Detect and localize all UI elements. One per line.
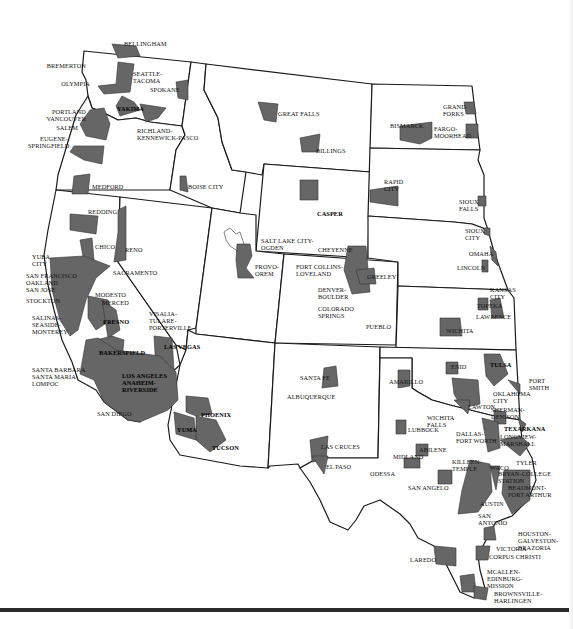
label-tucson: TUCSON <box>212 444 239 451</box>
label-richland: RICHLAND- KENNEWICK-PASCO <box>137 127 198 141</box>
label-las-cruces: LAS CRUCES <box>321 443 360 450</box>
label-yuba-city: YUBA CITY <box>32 253 50 267</box>
label-bremerton: BREMERTON <box>46 62 86 69</box>
label-wichita: WICHITA <box>446 327 473 334</box>
label-odessa: ODESSA <box>370 470 395 477</box>
label-santa-barbara: SANTA BARBARA SANTA MARIA- LOMPOC <box>32 366 85 387</box>
label-medford: MEDFORD <box>92 183 124 190</box>
label-killeen-temple: KILLEEN- TEMPLE <box>452 458 481 472</box>
label-modesto: MODESTO <box>95 291 126 298</box>
label-lincoln: LINCOLN <box>457 264 485 271</box>
label-grand-forks: GRAND FORKS <box>443 103 466 117</box>
label-colorado-springs: COLORADO SPRINGS <box>318 305 354 319</box>
label-casper: CASPER <box>317 210 343 217</box>
label-san-diego: SAN DIEGO <box>97 410 132 417</box>
label-santa-fe: SANTA FE <box>300 374 330 381</box>
label-boise-city: BOISE CITY <box>188 183 223 190</box>
label-sacramento: SACRAMENTO <box>113 269 157 276</box>
label-omaha: OMAHA <box>469 250 493 257</box>
label-redding: REDDING <box>88 208 117 215</box>
label-san-angelo: SAN ANGELO <box>408 484 449 491</box>
label-rapid-city: RAPID CITY <box>384 178 403 192</box>
label-yuma: YUMA <box>177 426 197 433</box>
page-spine-shadow <box>569 0 573 629</box>
label-stockton: STOCKTON <box>26 297 60 304</box>
label-denver-boulder: DENVER- BOULDER <box>318 286 348 300</box>
label-topeka: TOPEKA <box>477 302 502 309</box>
label-visalia: VISALIA- TULARE- PORTERVILLE <box>149 310 192 331</box>
label-las-vegas: LAS VEGAS <box>164 343 200 350</box>
label-chico: CHICO <box>95 243 115 250</box>
label-seattle-tacoma: SEATTLE- TACOMA <box>133 70 162 84</box>
state-montana <box>204 64 372 175</box>
label-sioux-falls: SIOUX FALLS <box>459 198 479 212</box>
label-enid: ENID <box>451 363 466 370</box>
label-salinas: SALINAS- SEASIDE- MONTEREY <box>32 314 68 335</box>
label-dallas-fort-worth: DALLAS- FORT WORTH <box>456 430 497 444</box>
label-phoenix: PHOENIX <box>201 411 231 418</box>
label-midland: MIDLAND <box>393 453 423 460</box>
label-pueblo: PUEBLO <box>366 323 391 330</box>
label-san-francisco: SAN FRANCISCO OAKLAND SAN JOSE <box>26 272 77 293</box>
label-san-antonio: SAN ANTONIO <box>478 512 507 526</box>
label-merced: MERCED <box>102 299 129 306</box>
label-lawrence: LAWRENCE <box>476 313 511 320</box>
label-reno: RENO <box>125 246 143 253</box>
label-fort-smith: FORT SMITH <box>529 377 549 391</box>
label-yakima: YAKIMA <box>117 105 144 112</box>
label-beaumont: BEAUMONT- PORT ARTHUR <box>508 484 551 498</box>
label-oklahoma-city: OKLAHOMA CITY <box>493 390 531 404</box>
label-albuquerque: ALBUQUERQUE <box>287 393 335 400</box>
label-cheyenne: CHEYENNE <box>318 246 353 253</box>
label-mcallen: McALLEN- EDINBURG- MISSION <box>487 568 523 589</box>
label-fort-collins: FORT COLLINS- LOVELAND <box>296 263 343 277</box>
label-spokane: SPOKANE <box>150 86 180 93</box>
label-bryan-college-station: BRYAN-COLLEGE STATION <box>498 470 551 484</box>
label-texarkana: TEXARKANA <box>504 425 545 432</box>
label-great-falls: GREAT FALLS <box>278 110 320 117</box>
label-austin: AUSTIN <box>480 500 504 507</box>
label-tyler: TYLER <box>516 459 537 466</box>
label-billings: BILLINGS <box>316 147 345 154</box>
label-amarillo: AMARILLO <box>389 378 423 385</box>
label-portland-vancouver: PORTLAND VANCOUVER <box>38 108 86 122</box>
label-salt-lake-city: SALT LAKE CITY- OGDEN <box>261 237 314 251</box>
label-victoria: VICTORIA <box>496 545 527 552</box>
label-bellingham: BELLINGHAM <box>124 40 167 47</box>
label-brownsville: BROWNSVILLE- HARLINGEN <box>494 590 542 604</box>
label-el-paso: EL PASO <box>326 463 351 470</box>
label-fresno: FRESNO <box>103 318 129 325</box>
label-bismarck: BISMARCK <box>390 122 424 129</box>
label-sherman-denison: SHERMAN- DENISON <box>491 406 525 420</box>
label-olympia: OLYMPIA <box>54 80 90 87</box>
label-lubbock: LUBBOCK <box>408 426 439 433</box>
label-salem: SALEM <box>50 124 78 131</box>
label-provo-orem: PROVO- OREM <box>255 263 279 277</box>
label-eugene: EUGENE- SPRINGFIELD <box>28 135 68 149</box>
label-longview-marshall: LONGVIEW- MARSHALL <box>500 433 537 447</box>
label-abilene: ABILENE <box>419 446 447 453</box>
page-bottom-rule <box>0 608 573 612</box>
label-kansas-city: KANSAS CITY <box>490 286 516 300</box>
label-bakersfield: BAKERSFIELD <box>99 349 145 356</box>
label-fargo-moorhead: FARGO- MOORHEAD <box>434 125 471 139</box>
label-sioux-city: SIOUX CITY <box>465 227 485 241</box>
label-tulsa: TULSA <box>490 361 512 368</box>
label-los-angeles: LOS ANGELES ANAHEIM- RIVERSIDE <box>122 372 167 393</box>
label-greeley: GREELEY <box>367 273 396 280</box>
label-laredo: LAREDO <box>410 556 436 563</box>
label-corpus-christi: CORPUS CHRISTI <box>489 553 541 560</box>
